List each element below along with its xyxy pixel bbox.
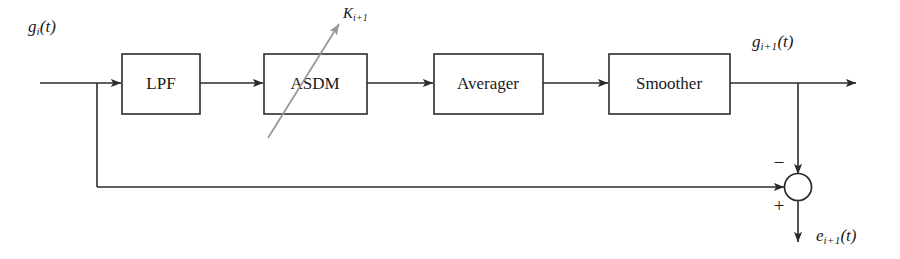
block-label-smoother: Smoother — [636, 74, 702, 93]
signal-error-base: e — [816, 226, 824, 245]
signal-error-arg: (t) — [840, 226, 856, 245]
signal-output-arg: (t) — [777, 32, 793, 51]
block-diagram: LPF ASDM Averager Smoother − + gi(t) gi+… — [0, 0, 900, 259]
signal-label-output: gi+1(t) — [752, 33, 793, 52]
block-label-lpf: LPF — [146, 74, 175, 93]
summing-junction-minus-sign: − — [774, 152, 785, 173]
signal-gain-base: K — [343, 5, 353, 21]
signal-label-input: gi(t) — [28, 18, 56, 37]
signal-label-gain: Ki+1 — [343, 6, 368, 23]
signal-input-arg: (t) — [40, 17, 56, 36]
signal-output-base: g — [752, 32, 761, 51]
signal-output-sub: i+1 — [761, 40, 778, 52]
signal-label-error: ei+1(t) — [816, 227, 857, 246]
signal-gain-sub: i+1 — [353, 12, 368, 23]
block-label-averager: Averager — [457, 74, 519, 93]
signal-error-sub: i+1 — [824, 234, 841, 246]
summing-junction — [785, 174, 812, 201]
signal-input-base: g — [28, 17, 37, 36]
summing-junction-plus-sign: + — [774, 195, 785, 216]
